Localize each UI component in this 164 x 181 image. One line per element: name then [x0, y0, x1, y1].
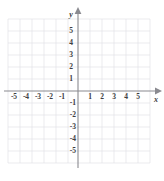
x-tick-label: -5: [11, 92, 17, 101]
x-tick-label: 4: [124, 92, 128, 101]
y-tick-label: -5: [70, 146, 76, 155]
y-tick-label: 4: [69, 38, 73, 47]
y-tick-label: -1: [70, 98, 76, 107]
y-tick-label: 5: [69, 26, 73, 35]
y-tick-label: -4: [70, 134, 76, 143]
x-axis-arrowhead-icon: [155, 88, 162, 95]
axis-names-group: y x: [68, 10, 158, 104]
y-tick-label: 1: [69, 74, 73, 83]
coordinate-grid-svg: -5 -4 -3 -2 -1 1 2 3 4 5 5 4 3 2 1 -1 -2…: [0, 0, 164, 181]
x-tick-label: -2: [47, 92, 53, 101]
x-tick-label: 2: [100, 92, 104, 101]
x-tick-label: -4: [23, 92, 29, 101]
y-axis-label: y: [68, 10, 73, 19]
x-tick-label: 5: [136, 92, 140, 101]
y-axis-arrowhead-icon: [75, 7, 82, 14]
x-tick-label: 3: [112, 92, 116, 101]
x-tick-label: 1: [88, 92, 92, 101]
y-tick-label: 3: [69, 50, 73, 59]
y-tick-label: 2: [69, 62, 73, 71]
x-tick-label: -3: [35, 92, 41, 101]
x-axis-label: x: [153, 95, 158, 104]
y-tick-label: -2: [70, 110, 76, 119]
coordinate-plane-figure: -5 -4 -3 -2 -1 1 2 3 4 5 5 4 3 2 1 -1 -2…: [0, 0, 164, 181]
y-tick-label: -3: [70, 122, 76, 131]
x-tick-label: -1: [59, 92, 65, 101]
